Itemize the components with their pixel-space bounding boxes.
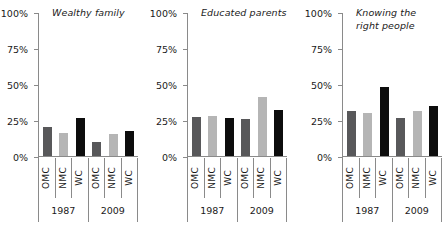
bar-1987-omc [43,127,52,156]
y-tick-25: 25% [34,121,38,122]
y-tick-label-0: 0% [13,152,28,163]
category-label: OMC [92,167,101,189]
category-cell: NMC [204,158,221,198]
bar-2009-wc [429,106,438,156]
y-tick-label-75: 75% [311,44,332,55]
bar-1987-wc [380,87,389,156]
year-label-2009: 2009 [392,198,443,222]
category-label: NMC [208,167,217,189]
y-tick-75: 75% [338,49,342,50]
category-label: WC [379,170,388,186]
chart-panel-knowing-right-people: Knowing the right people 100% 75% 50% 25… [298,0,447,226]
chart-panel-wealthy-family: Wealthy family 100% 75% 50% 25% 0% [0,0,149,226]
y-tick-label-25: 25% [156,116,177,127]
y-tick-label-100: 100% [150,8,177,19]
category-label: OMC [42,167,51,189]
category-cell: OMC [187,158,204,198]
category-label: OMC [241,167,250,189]
year-label-1987: 1987 [38,198,88,222]
bar-1987-omc [192,117,201,156]
bar-1987-omc [347,111,356,156]
y-tick-label-50: 50% [7,80,28,91]
y-tick-label-100: 100% [1,8,28,19]
plot-area: 100% 75% 50% 25% 0% [342,13,442,157]
bar-2009-nmc [109,134,118,156]
category-label: OMC [346,167,355,189]
category-label-row: OMC NMC WC OMC NMC WC [38,158,138,198]
bar-1987-nmc [59,133,68,156]
chart-panel-educated-parents: Educated parents 100% 75% 50% 25% 0% [149,0,298,226]
plot-area: 100% 75% 50% 25% 0% [187,13,287,157]
y-tick-50: 50% [34,85,38,86]
y-tick-label-25: 25% [7,116,28,127]
bar-2009-nmc [258,97,267,156]
y-tick-label-0: 0% [317,152,332,163]
multi-panel-bar-chart: Wealthy family 100% 75% 50% 25% 0% [0,0,447,226]
category-label: WC [75,170,84,186]
x-axis-baseline [187,156,287,157]
bar-group [343,12,442,156]
y-tick-label-0: 0% [162,152,177,163]
category-label: WC [274,170,283,186]
category-cell: WC [270,158,288,198]
category-cell: OMC [392,158,409,198]
bar-1987-nmc [208,116,217,156]
bar-2009-wc [125,131,134,156]
y-tick-50: 50% [338,85,342,86]
category-label: NMC [412,167,421,189]
bar-2009-omc [92,142,101,156]
y-tick-label-25: 25% [311,116,332,127]
y-tick-50: 50% [183,85,187,86]
category-cell: NMC [104,158,121,198]
year-label-row: 1987 2009 [187,198,287,222]
bar-1987-wc [76,118,85,156]
y-tick-25: 25% [338,121,342,122]
category-cell: OMC [38,158,55,198]
category-label: OMC [191,167,200,189]
plot-area: 100% 75% 50% 25% 0% [38,13,138,157]
category-cell: WC [71,158,88,198]
category-label: NMC [59,167,68,189]
category-cell: OMC [88,158,105,198]
year-label-2009: 2009 [88,198,139,222]
category-cell: NMC [408,158,425,198]
category-cell: WC [375,158,392,198]
category-label: OMC [396,167,405,189]
x-axis-baseline [342,156,442,157]
category-cell: OMC [342,158,359,198]
category-cell: NMC [359,158,376,198]
category-cell: WC [220,158,237,198]
y-tick-label-50: 50% [156,80,177,91]
bar-group [39,12,138,156]
bar-2009-nmc [413,111,422,156]
y-tick-75: 75% [183,49,187,50]
bar-1987-nmc [363,113,372,156]
category-label: NMC [108,167,117,189]
y-tick-100: 100% [183,13,187,14]
y-tick-100: 100% [34,13,38,14]
year-label-1987: 1987 [342,198,392,222]
y-tick-25: 25% [183,121,187,122]
year-label-2009: 2009 [237,198,288,222]
y-tick-label-75: 75% [156,44,177,55]
category-label: NMC [363,167,372,189]
bar-2009-wc [274,110,283,156]
category-label: WC [224,170,233,186]
category-cell: NMC [253,158,270,198]
category-cell: OMC [237,158,254,198]
category-cell: WC [425,158,443,198]
year-label-1987: 1987 [187,198,237,222]
bar-2009-omc [241,119,250,156]
category-label-row: OMC NMC WC OMC NMC WC [342,158,442,198]
category-label: WC [125,170,134,186]
y-tick-label-50: 50% [311,80,332,91]
x-axis-baseline [38,156,138,157]
y-tick-100: 100% [338,13,342,14]
y-tick-label-100: 100% [305,8,332,19]
year-label-row: 1987 2009 [38,198,138,222]
y-tick-label-75: 75% [7,44,28,55]
category-label-row: OMC NMC WC OMC NMC WC [187,158,287,198]
y-tick-75: 75% [34,49,38,50]
bar-2009-omc [396,118,405,156]
bar-group [188,12,287,156]
